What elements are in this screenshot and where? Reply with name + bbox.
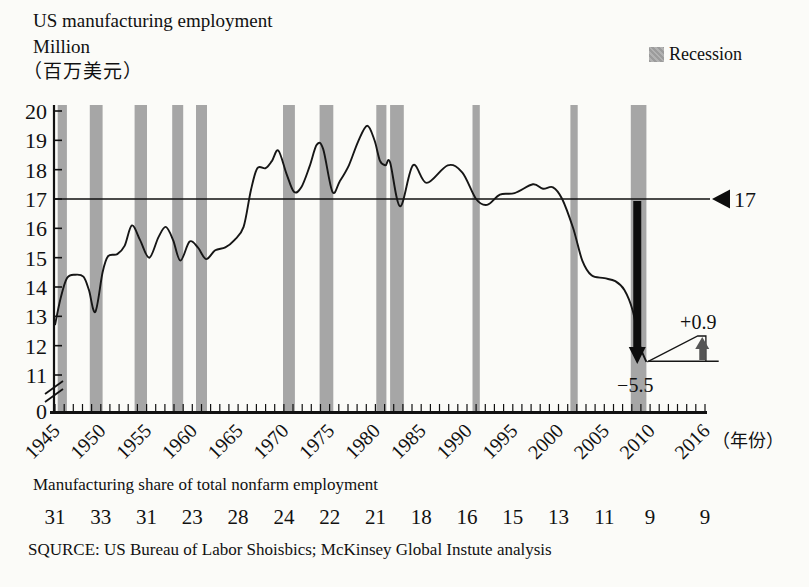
source-note: SQURCE: US Bureau of Labor Shoisbics; Mc… — [28, 540, 552, 560]
y-tick-label: 12 — [25, 334, 47, 359]
share-value: 18 — [411, 505, 432, 529]
x-tick-label: 1960 — [157, 419, 201, 463]
share-value: 31 — [136, 505, 157, 529]
recession-band — [570, 105, 577, 412]
x-tick-label: 2005 — [569, 419, 613, 463]
y-tick-label: 15 — [25, 246, 47, 271]
share-value: 33 — [90, 505, 111, 529]
x-tick-label: 1950 — [66, 419, 110, 463]
figure-page: US manufacturing employment Million （百万美… — [0, 0, 809, 587]
share-value: 15 — [502, 505, 523, 529]
x-tick-label: 1985 — [386, 419, 430, 463]
gain-arrow-head-icon — [695, 337, 709, 349]
x-tick-label: 1945 — [20, 419, 64, 463]
y-tick-label: 13 — [25, 304, 47, 329]
recession-band — [58, 105, 67, 412]
share-table-title: Manufacturing share of total nonfarm emp… — [33, 475, 378, 495]
y-tick-label: 16 — [25, 216, 47, 241]
x-tick-label: 1965 — [203, 419, 247, 463]
gain-label: +0.9 — [680, 311, 716, 333]
share-values-row: 3133312328242221181615131199 — [45, 505, 711, 529]
share-value: 9 — [645, 505, 656, 529]
x-tick-label: 1955 — [112, 419, 156, 463]
recession-band — [283, 105, 295, 412]
x-tick-label: 1995 — [478, 419, 522, 463]
share-value: 23 — [182, 505, 203, 529]
x-tick-label: 1990 — [432, 419, 476, 463]
x-tick-label: 2010 — [615, 419, 659, 463]
y-axis: 111213141516171819200 — [25, 99, 63, 424]
x-tick-label: 2000 — [524, 419, 568, 463]
x-tick-label: 1980 — [340, 419, 384, 463]
recession-band — [390, 105, 404, 412]
x-tick-label: 2016 — [670, 419, 714, 463]
share-value: 21 — [365, 505, 386, 529]
share-value: 24 — [273, 505, 295, 529]
chart-svg: 1711121314151617181920019451950195519601… — [0, 0, 809, 587]
drop-label: −5.5 — [617, 374, 653, 396]
x-tick-label: 1970 — [249, 419, 293, 463]
y-tick-label: 20 — [25, 99, 47, 124]
reference-line-label: 17 — [734, 187, 756, 212]
x-tick-label: 1975 — [295, 419, 339, 463]
y-tick-label: 18 — [25, 158, 47, 183]
share-value: 28 — [228, 505, 249, 529]
recession-band — [320, 105, 334, 412]
y-tick-label: 14 — [25, 275, 47, 300]
share-value: 16 — [456, 505, 477, 529]
reference-marker-icon — [712, 190, 730, 209]
recession-bands — [58, 105, 647, 412]
recession-band — [473, 105, 480, 412]
recession-band — [90, 105, 103, 412]
share-value: 31 — [45, 505, 66, 529]
share-value: 13 — [548, 505, 569, 529]
share-value: 9 — [700, 505, 711, 529]
y-tick-label: 17 — [25, 187, 47, 212]
share-value: 11 — [594, 505, 614, 529]
share-value: 22 — [319, 505, 340, 529]
x-axis: 1945195019551960196519701975198019851990… — [20, 404, 784, 463]
recession-band — [135, 105, 147, 412]
x-axis-suffix-label: （年份） — [712, 431, 784, 451]
y-origin-label: 0 — [36, 399, 47, 424]
y-tick-label: 11 — [26, 363, 47, 388]
y-tick-label: 19 — [25, 128, 47, 153]
